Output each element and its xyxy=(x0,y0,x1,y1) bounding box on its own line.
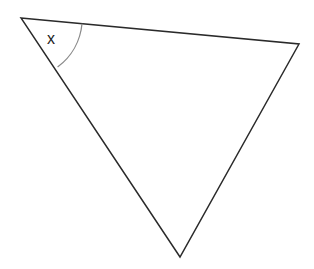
angle-label: x xyxy=(47,30,55,47)
triangle xyxy=(21,18,299,257)
triangle-diagram: x xyxy=(0,0,314,269)
angle-arc xyxy=(58,24,82,67)
